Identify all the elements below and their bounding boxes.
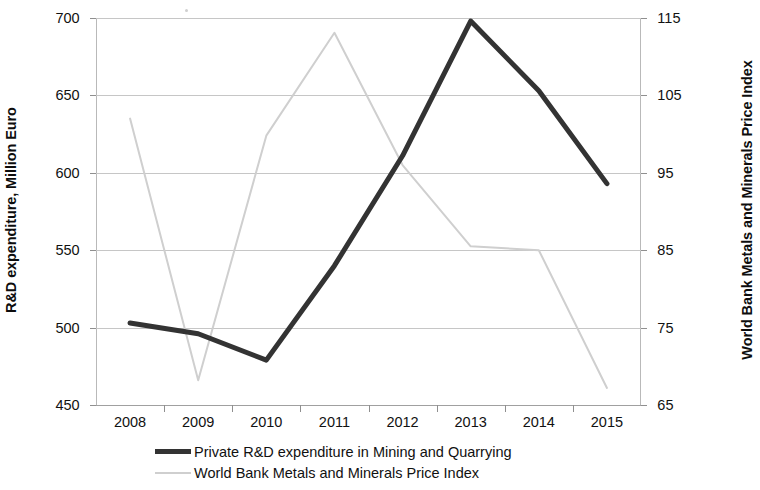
right-axis-tick [641, 173, 647, 174]
legend-swatch-light-line [155, 472, 191, 474]
left-axis-title: R&D expenditure, Million Euro [0, 0, 22, 420]
right-tick-label: 105 [657, 87, 681, 103]
right-axis-title: World Bank Metals and Minerals Price Ind… [736, 0, 758, 420]
x-axis-tick [505, 405, 506, 412]
scan-speckle [185, 9, 188, 12]
right-tick-label: 65 [657, 397, 673, 413]
x-tick-label: 2009 [182, 414, 214, 430]
chart-figure: R&D expenditure, Million Euro World Bank… [0, 0, 760, 490]
x-tick-label: 2011 [319, 414, 350, 430]
x-tick-label: 2015 [591, 414, 623, 430]
x-axis-tick [437, 405, 438, 412]
left-tick-label: 550 [55, 242, 79, 258]
series-lines [96, 18, 641, 405]
left-tick-label: 600 [55, 165, 79, 181]
x-tick-label: 2008 [114, 414, 146, 430]
legend-label-world-bank-index: World Bank Metals and Minerals Price Ind… [194, 465, 479, 481]
chart-legend: Private R&D expenditure in Mining and Qu… [155, 441, 675, 483]
right-axis-tick [641, 328, 647, 329]
right-tick-label: 75 [657, 320, 673, 336]
x-axis-tick [164, 405, 165, 412]
x-axis-tick [232, 405, 233, 412]
legend-item-world-bank-index: World Bank Metals and Minerals Price Ind… [155, 462, 675, 483]
line-private-rd-expenditure [130, 21, 607, 360]
left-tick-label: 450 [55, 397, 79, 413]
right-tick-label: 115 [657, 10, 680, 26]
right-axis-tick [641, 95, 647, 96]
legend-label-private-rd: Private R&D expenditure in Mining and Qu… [194, 444, 512, 460]
x-tick-label: 2013 [455, 414, 487, 430]
left-tick-label: 500 [55, 320, 79, 336]
x-tick-label: 2012 [386, 414, 418, 430]
left-tick-label: 650 [55, 87, 79, 103]
right-axis-tick [641, 405, 647, 406]
plot-area: 450500550600650700 65758595105115 200820… [96, 18, 641, 405]
x-axis-tick [300, 405, 301, 412]
legend-swatch-dark-line [155, 449, 191, 454]
x-axis-tick [573, 405, 574, 412]
left-tick-label: 700 [55, 10, 79, 26]
x-tick-label: 2014 [523, 414, 555, 430]
right-tick-label: 95 [657, 165, 673, 181]
x-tick-label: 2010 [250, 414, 282, 430]
x-axis-tick [369, 405, 370, 412]
left-axis-title-text: R&D expenditure, Million Euro [3, 107, 19, 313]
right-axis-tick [641, 250, 647, 251]
right-axis-tick [641, 18, 647, 19]
right-axis-title-text: World Bank Metals and Minerals Price Ind… [739, 60, 755, 359]
left-axis-tick [90, 405, 96, 406]
legend-item-private-rd: Private R&D expenditure in Mining and Qu… [155, 441, 675, 462]
right-tick-label: 85 [657, 242, 673, 258]
